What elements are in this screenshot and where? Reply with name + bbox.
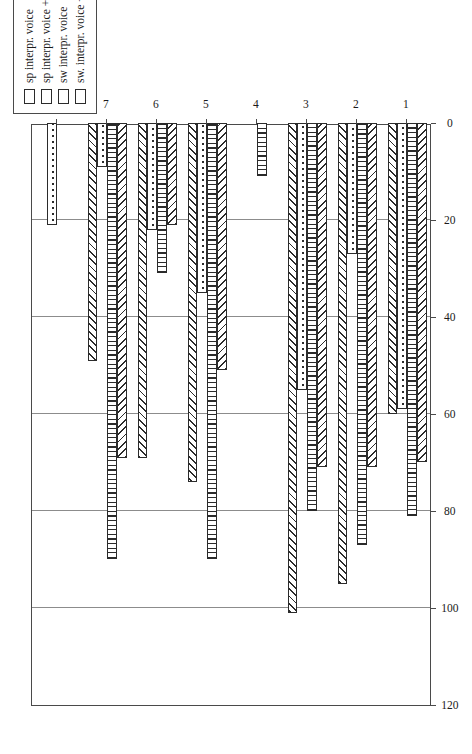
bar-cat1-series2 bbox=[407, 123, 417, 516]
bar-cat2-series3 bbox=[347, 123, 357, 254]
bar-cat3-series2 bbox=[307, 123, 317, 511]
category-label-6: 6 bbox=[145, 99, 167, 111]
bar-cat5-series3 bbox=[197, 123, 207, 293]
value-label-40: 40 bbox=[435, 312, 465, 324]
bar-cat1-series4 bbox=[388, 123, 398, 414]
value-label-80: 80 bbox=[435, 506, 465, 518]
legend-item-1: sp interpr. voice bbox=[21, 0, 38, 104]
legend-item-4: sw. interpr. voice + face bbox=[72, 0, 89, 104]
bar-cat7-series3 bbox=[97, 123, 107, 167]
chart-rotated-canvas: 020406080100120 12345678 sp interpr. voi… bbox=[0, 0, 472, 754]
bar-cat6-series4 bbox=[138, 123, 148, 458]
bar-cat6-series1 bbox=[167, 123, 177, 225]
bar-cat2-series2 bbox=[357, 123, 367, 545]
category-tick-6 bbox=[156, 119, 157, 124]
gridline-80 bbox=[32, 510, 430, 511]
legend-swatch-icon-3 bbox=[58, 89, 69, 104]
gridline-100 bbox=[32, 607, 430, 608]
legend-label-4: sw. interpr. voice + face bbox=[75, 0, 87, 83]
legend-swatch-icon-2 bbox=[41, 89, 52, 104]
legend-label-1: sp interpr. voice bbox=[24, 9, 36, 83]
bar-cat2-series4 bbox=[338, 123, 348, 584]
bar-cat3-series3 bbox=[297, 123, 307, 390]
bar-cat5-series4 bbox=[188, 123, 198, 482]
bar-cat5-series2 bbox=[207, 123, 217, 560]
legend-label-2: sp interpr. voice + face bbox=[41, 0, 53, 83]
bar-cat7-series1 bbox=[117, 123, 127, 458]
legend-swatch-icon-1 bbox=[24, 89, 35, 104]
category-label-2: 2 bbox=[345, 99, 367, 111]
bar-cat1-series1 bbox=[417, 123, 427, 463]
bar-cat7-series4 bbox=[88, 123, 98, 361]
value-label-20: 20 bbox=[435, 215, 465, 227]
bar-cat1-series3 bbox=[397, 123, 407, 409]
legend: sp interpr. voicesp interpr. voice + fac… bbox=[13, 0, 97, 114]
bar-cat3-series1 bbox=[317, 123, 327, 467]
bar-cat6-series2 bbox=[157, 123, 167, 273]
category-tick-8 bbox=[56, 119, 57, 124]
value-label-100: 100 bbox=[435, 603, 465, 615]
legend-swatch-icon-4 bbox=[75, 89, 86, 104]
legend-item-3: sw interpr. voice bbox=[55, 0, 72, 104]
bar-chart: 020406080100120 12345678 sp interpr. voi… bbox=[0, 0, 472, 754]
plot-area bbox=[31, 124, 431, 706]
legend-label-3: sw interpr. voice bbox=[58, 7, 70, 83]
legend-item-2: sp interpr. voice + face bbox=[38, 0, 55, 104]
value-label-120: 120 bbox=[435, 700, 465, 712]
bar-cat7-series2 bbox=[107, 123, 117, 560]
bar-cat6-series3 bbox=[147, 123, 157, 230]
category-tick-3 bbox=[306, 119, 307, 124]
bar-cat3-series4 bbox=[288, 123, 298, 613]
category-label-5: 5 bbox=[195, 99, 217, 111]
bar-cat4-series2 bbox=[257, 123, 267, 176]
category-label-1: 1 bbox=[395, 99, 417, 111]
bar-cat5-series1 bbox=[217, 123, 227, 370]
value-label-0: 0 bbox=[435, 118, 465, 130]
value-label-60: 60 bbox=[435, 409, 465, 421]
category-label-3: 3 bbox=[295, 99, 317, 111]
bar-cat8-series3 bbox=[47, 123, 57, 225]
bar-cat2-series1 bbox=[367, 123, 377, 467]
category-tick-7 bbox=[106, 119, 107, 124]
category-tick-4 bbox=[256, 119, 257, 124]
category-tick-1 bbox=[406, 119, 407, 124]
category-label-4: 4 bbox=[245, 99, 267, 111]
category-tick-2 bbox=[356, 119, 357, 124]
category-tick-5 bbox=[206, 119, 207, 124]
category-label-7: 7 bbox=[95, 99, 117, 111]
